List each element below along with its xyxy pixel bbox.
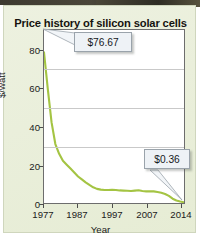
y-tick-label-20: 20 [14,160,40,171]
y-tick-label-0: 0 [14,199,40,210]
x-tick-label-1987: 1987 [66,209,87,220]
x-tick-label-1977: 1977 [32,209,53,220]
price-line-series [44,30,184,203]
y-tick-label-40: 40 [14,122,40,133]
x-tick-label-2014: 2014 [170,209,191,220]
x-tick-mark-1977 [43,204,44,208]
x-tick-label-2007: 2007 [136,209,157,220]
x-axis-label: Year [4,224,197,235]
low-price-callout: $0.36 [144,149,190,169]
gridline-60 [44,69,184,70]
x-tick-label-1997: 1997 [101,209,122,220]
plot-area [43,29,185,204]
gridline-20 [44,147,184,148]
chart-card: Price history of silicon solar cells $/w… [3,5,196,233]
gridline-40 [44,108,184,109]
high-price-callout: $76.67 [74,32,132,52]
y-axis-label: $/watt [0,72,7,98]
x-tick-mark-2014 [181,204,182,208]
chart-figure: Price history of silicon solar cells $/w… [0,0,200,244]
x-tick-mark-1997 [112,204,113,208]
y-tick-label-60: 60 [14,83,40,94]
chart-title: Price history of silicon solar cells [4,17,197,29]
x-tick-mark-1987 [77,204,78,208]
y-tick-label-80: 80 [14,44,40,55]
x-tick-mark-2007 [147,204,148,208]
